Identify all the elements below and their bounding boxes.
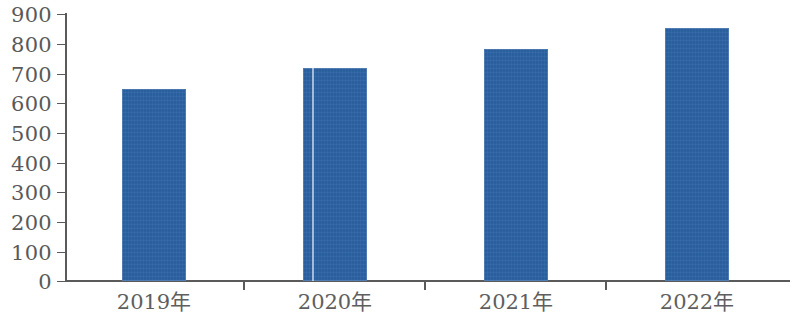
- bar-scanline-artifact: [312, 68, 314, 281]
- x-axis-tick: [243, 281, 245, 290]
- plot-area: 900 800 700 600 500 400 300 200 100 0: [0, 0, 796, 316]
- y-axis-tick: [57, 14, 66, 15]
- y-axis-tick-label: 800: [0, 35, 52, 56]
- bar-2019[interactable]: [122, 89, 186, 281]
- bar-2022[interactable]: [665, 28, 729, 281]
- x-axis-label-2022: 2022年: [607, 290, 787, 314]
- y-axis-tick: [57, 192, 66, 193]
- y-axis-tick-label: 900: [0, 5, 52, 26]
- y-axis-tick-label: 600: [0, 94, 52, 115]
- y-axis-tick: [57, 103, 66, 104]
- x-axis-label-2020: 2020年: [245, 290, 425, 314]
- x-axis-label-2019: 2019年: [64, 290, 244, 314]
- y-axis-tick: [57, 163, 66, 164]
- y-axis-tick: [57, 44, 66, 45]
- bar-2021[interactable]: [484, 49, 548, 281]
- bar-chart: 900 800 700 600 500 400 300 200 100 0: [0, 0, 796, 316]
- y-axis-tick-label: 400: [0, 154, 52, 175]
- y-axis-tick-label: 200: [0, 213, 52, 234]
- y-axis-tick-label: 500: [0, 124, 52, 145]
- y-axis-tick: [57, 222, 66, 223]
- x-axis-label-2021: 2021年: [426, 290, 606, 314]
- x-axis-tick: [424, 281, 426, 290]
- y-axis-line: [65, 13, 67, 282]
- y-axis-tick-label: 0: [0, 272, 52, 293]
- x-axis-tick: [605, 281, 607, 290]
- y-axis-tick: [57, 281, 66, 282]
- y-axis-tick: [57, 133, 66, 134]
- y-axis-tick-label: 100: [0, 243, 52, 264]
- y-axis-tick: [57, 74, 66, 75]
- y-axis-tick-label: 300: [0, 183, 52, 204]
- y-axis-tick-label: 700: [0, 65, 52, 86]
- bar-2020[interactable]: [303, 68, 367, 281]
- y-axis-tick: [57, 252, 66, 253]
